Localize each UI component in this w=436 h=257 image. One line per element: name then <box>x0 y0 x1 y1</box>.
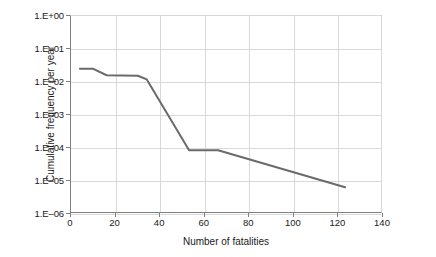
y-axis-tick-mark <box>66 180 70 181</box>
x-axis-tick-label: 40 <box>139 217 179 228</box>
y-axis-tick-mark <box>66 147 70 148</box>
x-axis-tick-label: 20 <box>95 217 135 228</box>
x-axis-tick-label: 100 <box>273 217 313 228</box>
y-axis-tick-mark <box>66 81 70 82</box>
x-axis-tick-mark <box>159 213 160 217</box>
x-axis-tick-label: 80 <box>228 217 268 228</box>
x-axis-tick-mark <box>204 213 205 217</box>
gridline-horizontal <box>71 214 381 215</box>
y-axis-tick-mark <box>66 15 70 16</box>
x-axis-tick-label: 60 <box>184 217 224 228</box>
x-axis-tick-label: 140 <box>362 217 402 228</box>
x-axis-tick-mark <box>115 213 116 217</box>
x-axis-tick-mark <box>248 213 249 217</box>
y-axis-tick-mark <box>66 114 70 115</box>
line-series-cumulative-frequency <box>80 69 345 187</box>
x-axis-tick-mark <box>70 213 71 217</box>
x-axis-tick-mark <box>382 213 383 217</box>
y-axis-title-wrapper: Cumulative frequency per year <box>22 15 36 213</box>
x-axis-tick-label: 120 <box>317 217 357 228</box>
x-axis-tick-mark <box>337 213 338 217</box>
y-axis-tick-mark <box>66 48 70 49</box>
x-axis-tick-mark <box>293 213 294 217</box>
y-axis-title: Cumulative frequency per year <box>45 14 56 214</box>
x-axis-tick-label: 0 <box>50 217 90 228</box>
chart-container: 1.E+001.E–011.E–021.E–031.E–041.E–051.E–… <box>0 0 436 257</box>
plot-area <box>70 15 382 213</box>
data-series-layer <box>71 16 381 212</box>
x-axis-title: Number of fatalities <box>70 236 382 247</box>
